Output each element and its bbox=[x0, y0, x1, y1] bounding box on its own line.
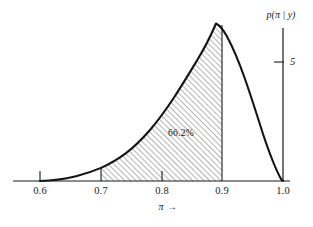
posterior-density-figure: 0.6 0.7 0.8 0.9 1.0 5 π → p(π | y) 66.2% bbox=[0, 0, 313, 227]
x-tick-label-1: 0.7 bbox=[94, 185, 108, 196]
x-tick-label-3: 0.9 bbox=[215, 185, 229, 196]
shaded-credible-interval bbox=[101, 0, 222, 181]
y-axis-title: p(π | y) bbox=[267, 9, 296, 20]
shaded-area-label: 66.2% bbox=[168, 128, 194, 138]
x-tick-label-0: 0.6 bbox=[33, 185, 47, 196]
x-tick-label-2: 0.8 bbox=[155, 185, 169, 196]
y-tick-label-5: 5 bbox=[290, 56, 295, 67]
x-tick-label-4: 1.0 bbox=[276, 185, 290, 196]
x-axis-title: π → bbox=[158, 201, 177, 212]
